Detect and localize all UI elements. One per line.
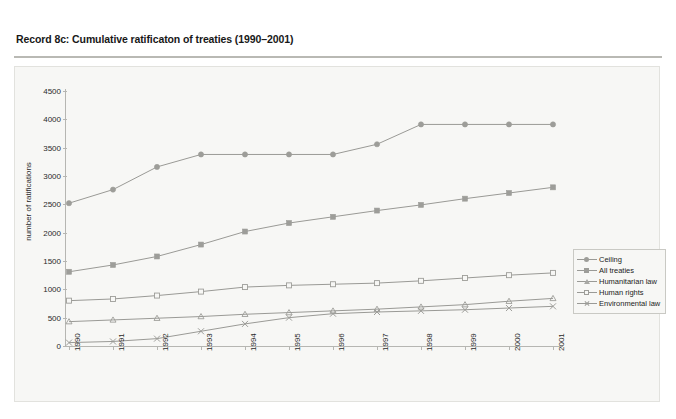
x-tick-label: 1990 — [73, 333, 82, 351]
y-tick-label: 3500 — [43, 143, 61, 152]
x-tick-label: 1994 — [249, 333, 258, 351]
data-point — [242, 152, 247, 157]
x-tick-label: 1997 — [381, 333, 390, 351]
y-tick-mark — [63, 233, 67, 234]
data-point — [375, 208, 380, 213]
y-tick-label: 4500 — [43, 87, 61, 96]
chart-panel: 050010001500200025003000350040004500 num… — [14, 66, 660, 402]
x-tick-label: 1996 — [337, 333, 346, 351]
filled-square-icon — [584, 268, 589, 273]
series-layer — [65, 91, 561, 346]
series-line — [69, 187, 553, 271]
y-tick-label: 3000 — [43, 172, 61, 181]
data-point — [550, 295, 556, 300]
y-tick-label: 0 — [57, 342, 61, 351]
series-environmental-law — [66, 303, 556, 345]
data-point — [199, 289, 204, 294]
data-point — [419, 278, 424, 283]
y-tick-label: 500 — [48, 313, 61, 322]
legend-swatch — [577, 265, 597, 276]
y-tick-mark — [63, 148, 67, 149]
y-tick-label: 2500 — [43, 200, 61, 209]
plot-area — [65, 91, 561, 346]
data-point — [507, 273, 512, 278]
y-tick-mark — [63, 176, 67, 177]
series-line — [69, 124, 553, 203]
data-point — [110, 187, 115, 192]
legend-item-humanitarian-law[interactable]: Humanitarian law — [577, 276, 660, 287]
y-tick-label: 4000 — [43, 115, 61, 124]
y-axis-tick-labels: 050010001500200025003000350040004500 — [15, 67, 61, 403]
x-tick-label: 1999 — [469, 333, 478, 351]
data-point — [550, 122, 555, 127]
x-tick-mark — [245, 347, 246, 350]
series-all-treaties — [67, 185, 556, 274]
legend-item-all-treaties[interactable]: All treaties — [577, 265, 660, 276]
y-tick-label: 1500 — [43, 257, 61, 266]
legend-item-ceiling[interactable]: Ceiling — [577, 254, 660, 265]
data-point — [198, 152, 203, 157]
legend-label: Environmental law — [599, 299, 660, 308]
series-ceiling — [66, 122, 555, 206]
x-axis-line — [64, 346, 563, 347]
series-humanitarian-law — [66, 295, 556, 323]
x-tick-mark — [289, 347, 290, 350]
data-point — [418, 122, 423, 127]
y-tick-label: 2000 — [43, 228, 61, 237]
data-point — [375, 281, 380, 286]
series-line — [69, 273, 553, 301]
legend-item-human-rights[interactable]: Human rights — [577, 287, 660, 298]
legend-swatch — [577, 298, 597, 309]
x-tick-mark — [509, 347, 510, 350]
series-line — [69, 298, 553, 321]
x-tick-label: 1995 — [293, 333, 302, 351]
data-point — [154, 164, 159, 169]
cross-icon — [584, 301, 590, 307]
x-tick-label: 1993 — [205, 333, 214, 351]
legend-label: Ceiling — [599, 255, 622, 264]
data-point — [463, 276, 468, 281]
x-tick-mark — [465, 347, 466, 350]
data-point — [286, 152, 291, 157]
data-point — [287, 221, 292, 226]
data-point — [66, 201, 71, 206]
circle-icon — [584, 257, 589, 262]
data-point — [507, 191, 512, 196]
x-tick-mark — [113, 347, 114, 350]
data-point — [330, 152, 335, 157]
x-tick-label: 1998 — [425, 333, 434, 351]
triangle-icon — [584, 279, 590, 284]
legend-label: Humanitarian law — [599, 277, 657, 286]
x-tick-label: 1991 — [117, 333, 126, 351]
legend-swatch — [577, 254, 597, 265]
data-point — [463, 196, 468, 201]
y-tick-mark — [63, 119, 67, 120]
y-tick-mark — [63, 318, 67, 319]
chart-legend: CeilingAll treatiesHumanitarian lawHuman… — [573, 249, 666, 314]
y-tick-mark — [63, 204, 67, 205]
x-tick-mark — [553, 347, 554, 350]
x-tick-mark — [421, 347, 422, 350]
y-axis-title: number of ratifications — [24, 127, 33, 277]
y-tick-mark — [63, 91, 67, 92]
data-point — [287, 283, 292, 288]
data-point — [111, 262, 116, 267]
data-point — [331, 282, 336, 287]
y-tick-label: 1000 — [43, 285, 61, 294]
data-point — [155, 254, 160, 259]
x-tick-mark — [377, 347, 378, 350]
open-square-icon — [584, 290, 589, 295]
data-point — [111, 296, 116, 301]
legend-item-environmental-law[interactable]: Environmental law — [577, 298, 660, 309]
data-point — [67, 269, 72, 274]
data-point — [243, 285, 248, 290]
figure-page: Record 8c: Cumulative ratificaton of tre… — [0, 0, 676, 419]
x-tick-mark — [201, 347, 202, 350]
data-point — [67, 298, 72, 303]
y-tick-mark — [63, 261, 67, 262]
x-tick-mark — [157, 347, 158, 350]
page-title: Record 8c: Cumulative ratificaton of tre… — [16, 33, 293, 45]
x-tick-label: 2001 — [557, 333, 566, 351]
x-tick-label: 1992 — [161, 333, 170, 351]
legend-swatch — [577, 276, 597, 287]
